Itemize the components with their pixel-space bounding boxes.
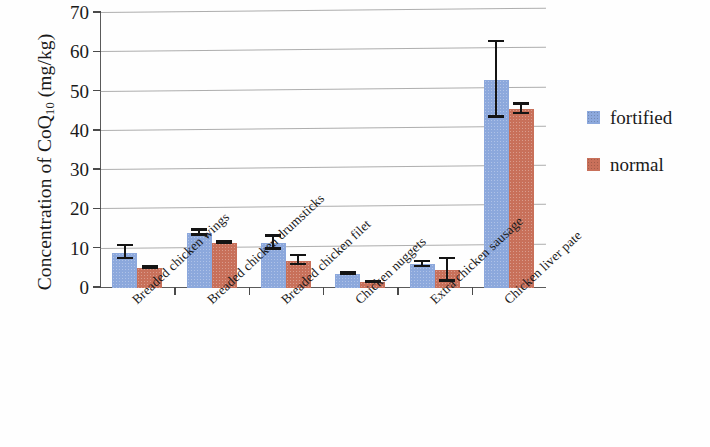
y-axis-tick (93, 90, 101, 91)
gridline (100, 126, 546, 131)
bar-fortified-3 (335, 274, 360, 288)
legend-item-fortified: fortified (587, 108, 672, 127)
y-axis-tick-label: 30 (70, 160, 89, 179)
error-bar-cap-top (488, 40, 504, 43)
bar-normal-2 (286, 261, 311, 289)
y-axis-tick-label: 20 (70, 199, 89, 218)
legend: fortified normal (587, 108, 672, 202)
y-axis-title-suffix: (mg/kg) (34, 34, 55, 103)
y-axis-title-subscript: 10 (43, 102, 57, 115)
y-axis-tick (93, 129, 101, 130)
legend-item-normal: normal (587, 155, 672, 174)
error-bar-cap-top (265, 234, 281, 237)
bar-normal-3 (360, 282, 385, 288)
bar-normal-0 (137, 268, 162, 288)
y-axis-tick-label: 70 (70, 3, 89, 22)
y-axis-title-prefix: Concentration of CoQ (34, 115, 55, 290)
bar-fortified-1 (187, 233, 212, 288)
y-axis-tick-label: 10 (70, 238, 89, 257)
gridline (100, 8, 546, 13)
x-axis-tick (174, 287, 175, 295)
bar-fortified-4 (410, 264, 435, 288)
y-axis-tick-label: 60 (70, 42, 89, 61)
legend-label-normal: normal (610, 155, 664, 174)
gridline (100, 165, 546, 170)
x-axis-tick (397, 287, 398, 295)
chart-figure: Concentration of CoQ10 (mg/kg) 010203040… (0, 0, 710, 447)
y-axis-tick (93, 11, 101, 12)
x-axis-tick (249, 287, 250, 295)
y-axis-title: Concentration of CoQ10 (mg/kg) (34, 12, 58, 312)
error-bar-cap-top (290, 254, 306, 257)
y-axis-tick (93, 51, 101, 52)
bar-fortified-2 (261, 243, 286, 288)
error-bar-cap-top (191, 228, 207, 231)
y-axis-tick (93, 208, 101, 209)
plot-area: 010203040506070 (100, 12, 546, 288)
legend-swatch-normal (587, 158, 600, 171)
gridline (100, 47, 546, 52)
y-axis-tick-label: 40 (70, 120, 89, 139)
gridline (100, 204, 546, 209)
gridline (100, 243, 546, 248)
gridline (100, 86, 546, 91)
bar-normal-5 (509, 109, 534, 288)
legend-swatch-fortified (587, 111, 600, 124)
error-bar-cap-top (414, 260, 430, 263)
bar-normal-1 (212, 243, 237, 288)
bar-fortified-5 (484, 80, 509, 288)
error-bar-cap-top (513, 102, 529, 105)
x-axis-tick (323, 287, 324, 295)
y-axis-tick-label: 50 (70, 81, 89, 100)
y-axis-tick (93, 286, 101, 287)
x-axis-tick (472, 287, 473, 295)
bar-fortified-0 (112, 253, 137, 288)
error-bar-cap-top (439, 257, 455, 260)
error-bar-cap-top (117, 244, 133, 247)
legend-label-fortified: fortified (610, 108, 672, 127)
y-axis-tick-label: 0 (80, 278, 90, 297)
y-axis-tick (93, 168, 101, 169)
y-axis-tick (93, 247, 101, 248)
bar-normal-4 (435, 270, 460, 288)
